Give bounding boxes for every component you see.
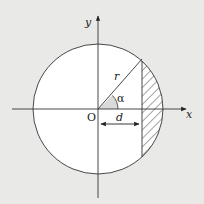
distance-label: d bbox=[116, 111, 123, 124]
origin-label: O bbox=[87, 111, 96, 124]
x-axis-label: x bbox=[186, 108, 193, 121]
angle-label: α bbox=[117, 92, 125, 105]
radius-label: r bbox=[114, 70, 120, 83]
y-axis-label: y bbox=[84, 16, 92, 29]
circle-segment-diagram: y x O r α d bbox=[0, 0, 204, 204]
hatched-segment bbox=[142, 40, 172, 180]
